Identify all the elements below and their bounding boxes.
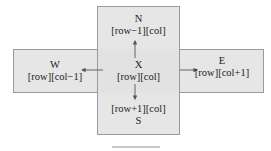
center-cell: X [row][col] [97,59,180,83]
north-cell: N [row−1][col] [97,13,180,37]
west-label: W [13,59,97,71]
figure-caption-cutoff [112,146,160,148]
south-cell: [row+1][col] S [97,103,180,127]
north-label: N [97,13,180,25]
west-index: [row][col−1] [13,71,97,83]
south-index: [row+1][col] [97,103,180,115]
east-label: E [180,55,264,67]
center-label: X [97,59,180,71]
south-label: S [97,115,180,127]
center-index: [row][col] [97,71,180,83]
west-cell: W [row][col−1] [13,59,97,83]
east-index: [row][col+1] [180,67,264,79]
east-cell: E [row][col+1] [180,55,264,79]
north-index: [row−1][col] [97,25,180,37]
